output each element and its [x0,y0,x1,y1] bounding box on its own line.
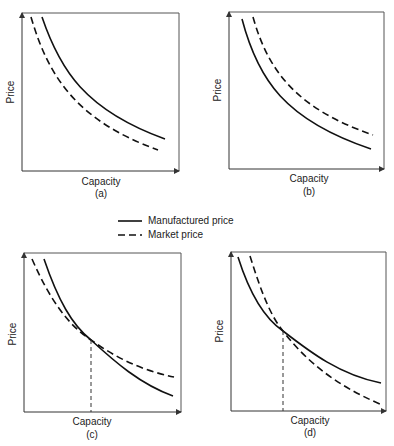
figure-canvas: Price Capacity (a) Price Capacity (b) Ma… [0,0,394,446]
legend-manufactured-label: Manufactured price [148,215,234,226]
panel-b-market-curve [253,17,373,135]
panel-c-market-curve [32,259,174,377]
panel-b: Price Capacity (b) [212,12,384,197]
panel-c-ylabel: Price [7,322,18,345]
panel-d-frame [231,252,386,411]
legend-market-label: Market price [148,229,203,240]
panel-a-frame [22,13,179,171]
panel-a: Price Capacity (a) [5,13,179,199]
panel-b-manufactured-curve [242,19,371,149]
panel-c-manufactured-curve [44,259,173,396]
panel-d-manufactured-curve [238,257,381,383]
panel-c: Price Capacity (c) [7,253,181,440]
legend: Manufactured price Market price [118,215,234,240]
panel-c-caption: (c) [86,429,98,440]
panel-c-frame [24,253,181,412]
panel-d-market-curve [250,256,380,404]
panel-a-xlabel: Capacity [82,176,121,187]
panel-a-caption: (a) [95,188,107,199]
panel-a-ylabel: Price [5,80,16,103]
panel-d-xlabel: Capacity [291,415,330,426]
panel-c-xlabel: Capacity [73,416,112,427]
panel-d-ylabel: Price [214,319,225,342]
panel-d: Price Capacity (d) [214,252,386,438]
panel-a-manufactured-curve [42,17,165,139]
panel-d-caption: (d) [304,427,316,438]
panel-b-ylabel: Price [212,78,223,101]
panel-b-caption: (b) [303,186,315,197]
panel-b-xlabel: Capacity [290,173,329,184]
